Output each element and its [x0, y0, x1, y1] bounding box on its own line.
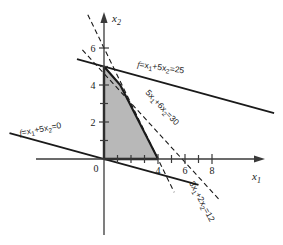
- label-objective-f-0: f=x1+5x2=0: [18, 120, 62, 139]
- tick-label-x-4: 4: [156, 165, 161, 176]
- plot-canvas: 4 6 8 2 4 6 0 x1 x2 f=x1+5x2=25 f=x1+5x2…: [0, 0, 283, 245]
- label-constraint-5x1-6x2: 5x1+6x2=30: [143, 88, 182, 129]
- label-constraint-3x1-2x2: 3x1+2x2=12: [186, 179, 217, 224]
- tick-label-y-6: 6: [91, 43, 96, 54]
- svg-text:3x1+2x2=12: 3x1+2x2=12: [186, 179, 217, 224]
- svg-text:f=x1+5x2=25: f=x1+5x2=25: [137, 59, 186, 77]
- tick-label-y-4: 4: [91, 80, 96, 91]
- tick-label-x-8: 8: [210, 165, 215, 176]
- tick-label-x-6: 6: [183, 165, 188, 176]
- label-objective-f-25: f=x1+5x2=25: [137, 59, 186, 77]
- svg-text:5x1+6x2=30: 5x1+6x2=30: [143, 88, 182, 129]
- x-axis-arrowhead: [254, 155, 265, 162]
- tick-label-y-2: 2: [91, 117, 96, 128]
- tick-label-origin: 0: [94, 163, 99, 174]
- linear-programming-figure: 4 6 8 2 4 6 0 x1 x2 f=x1+5x2=25 f=x1+5x2…: [0, 0, 283, 245]
- svg-text:f=x1+5x2=0: f=x1+5x2=0: [18, 120, 62, 139]
- y-axis-label: x2: [111, 12, 121, 27]
- x-axis-label: x1: [251, 170, 261, 185]
- y-axis-arrowhead: [100, 12, 107, 23]
